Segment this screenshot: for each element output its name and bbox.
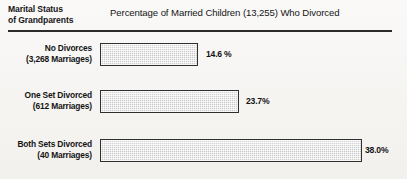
- bar-both-sets-divorced: [100, 139, 362, 162]
- row-label-both-sets-divorced: Both Sets Divorced (40 Marriages): [0, 139, 92, 160]
- bar-one-set-divorced: [100, 90, 239, 113]
- category-column-header: Marital Status of Grandparents: [8, 4, 104, 25]
- bar-chart: Marital Status of Grandparents Percentag…: [0, 0, 407, 179]
- row-label-sub: (3,268 Marriages): [0, 54, 92, 65]
- category-column-header-line1: Marital Status: [8, 4, 63, 14]
- bar-value-both-sets-divorced: 38.0%: [365, 145, 388, 155]
- bar-value-one-set-divorced: 23.7%: [246, 96, 269, 106]
- chart-title: Percentage of Married Children (13,255) …: [110, 7, 400, 18]
- row-label-main: No Divorces: [45, 43, 92, 53]
- chart-row-no-divorces: No Divorces (3,268 Marriages) 14.6 %: [0, 43, 407, 67]
- row-label-main: Both Sets Divorced: [17, 139, 92, 149]
- chart-row-both-sets-divorced: Both Sets Divorced (40 Marriages) 38.0%: [0, 139, 407, 163]
- chart-row-one-set-divorced: One Set Divorced (612 Marriages) 23.7%: [0, 90, 407, 114]
- row-label-main: One Set Divorced: [25, 90, 92, 100]
- row-label-sub: (612 Marriages): [0, 101, 92, 112]
- chart-rows: No Divorces (3,268 Marriages) 14.6 % One…: [0, 30, 407, 179]
- chart-header: Marital Status of Grandparents Percentag…: [0, 0, 407, 30]
- row-label-one-set-divorced: One Set Divorced (612 Marriages): [0, 90, 92, 111]
- category-column-header-line2: of Grandparents: [8, 15, 104, 26]
- bar-value-no-divorces: 14.6 %: [206, 49, 232, 59]
- row-label-no-divorces: No Divorces (3,268 Marriages): [0, 43, 92, 64]
- row-label-sub: (40 Marriages): [0, 150, 92, 161]
- bar-no-divorces: [100, 43, 198, 66]
